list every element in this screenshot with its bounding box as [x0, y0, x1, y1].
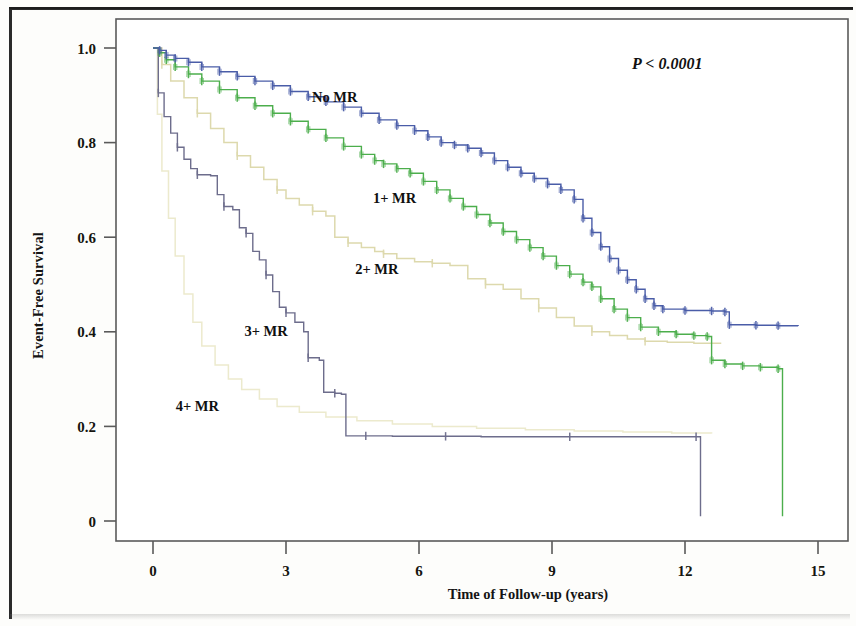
y-axis-title: Event-Free Survival: [30, 196, 47, 396]
y-tick-label: 0.8: [77, 135, 96, 151]
curve-label-1-mr: 1+ MR: [373, 190, 417, 206]
y-tick-label: 1.0: [77, 41, 96, 57]
x-tick-label: 9: [548, 563, 556, 579]
p-value-annotation: P < 0.0001: [631, 55, 702, 72]
x-tick-label: 15: [811, 563, 826, 579]
y-tick-label: 0.6: [77, 230, 96, 246]
figure-page: 1.00.80.60.40.2003691215No MR1+ MR2+ MR3…: [0, 0, 856, 626]
x-axis-title-text: Time of Follow-up (years): [448, 586, 608, 602]
curve-label-4-mr: 4+ MR: [176, 398, 220, 414]
kaplan-meier-chart: 1.00.80.60.40.2003691215No MR1+ MR2+ MR3…: [0, 0, 856, 626]
y-tick-label: 0.4: [77, 324, 96, 340]
y-tick-label: 0.2: [77, 419, 96, 435]
x-axis-title: Time of Follow-up (years): [0, 586, 856, 603]
y-tick-label: 0: [89, 514, 97, 530]
survival-plot-svg: 1.00.80.60.40.2003691215No MR1+ MR2+ MR3…: [0, 0, 856, 626]
curve-label-no-mr: No MR: [312, 89, 358, 105]
curve-label-2-mr: 2+ MR: [355, 261, 399, 277]
curve-label-3-mr: 3+ MR: [244, 323, 288, 339]
x-tick-label: 6: [415, 563, 423, 579]
plot-frame: [116, 19, 848, 541]
x-tick-label: 3: [282, 563, 290, 579]
x-tick-label: 0: [149, 563, 157, 579]
x-tick-label: 12: [678, 563, 693, 579]
